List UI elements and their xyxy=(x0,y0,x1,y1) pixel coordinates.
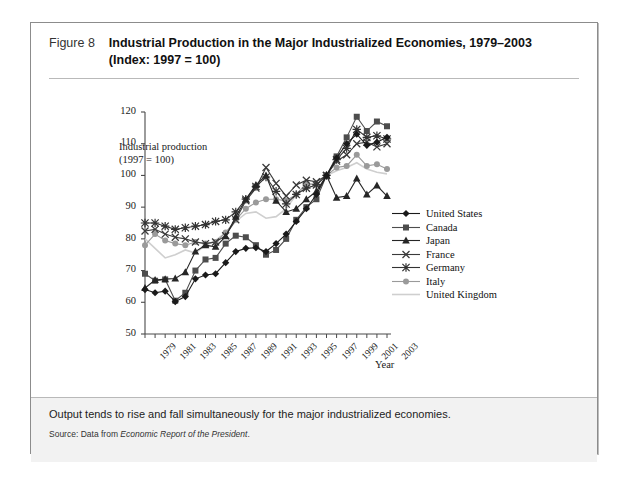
data-point-square xyxy=(243,234,249,240)
chart-legend: United StatesCanadaJapanFranceGermanyIta… xyxy=(391,207,497,302)
data-point-circle xyxy=(384,166,390,172)
data-point-star xyxy=(161,222,169,230)
data-point-star xyxy=(282,200,290,208)
data-point-square xyxy=(273,247,279,253)
legend-item-italy: Italy xyxy=(391,274,497,288)
data-point-star xyxy=(151,219,159,227)
data-point-star xyxy=(292,190,300,198)
legend-item-united-kingdom: United Kingdom xyxy=(391,288,497,302)
data-point-circle xyxy=(344,163,350,169)
legend-label: United Kingdom xyxy=(426,289,497,300)
data-point-star xyxy=(171,225,179,233)
data-point-diamond xyxy=(402,210,409,217)
data-point-square xyxy=(354,114,360,120)
data-point-square xyxy=(364,128,370,134)
data-point-circle xyxy=(243,205,249,211)
legend-item-france: France xyxy=(391,247,497,261)
legend-label: United States xyxy=(426,208,482,219)
data-point-square xyxy=(203,256,209,262)
legend-item-japan: Japan xyxy=(391,234,497,248)
data-point-star xyxy=(402,263,410,271)
data-point-diamond xyxy=(151,289,158,296)
data-point-triangle xyxy=(182,268,190,275)
legend-marker-icon xyxy=(391,288,421,301)
series-line-canada xyxy=(145,117,387,301)
data-point-square xyxy=(403,224,409,230)
legend-label: Japan xyxy=(426,235,450,246)
data-point-cross xyxy=(162,230,169,237)
data-point-cross xyxy=(273,180,280,187)
legend-marker-icon xyxy=(391,275,421,288)
legend-label: France xyxy=(426,249,455,260)
data-point-square xyxy=(344,134,350,140)
data-point-star xyxy=(221,215,229,223)
source-suffix: . xyxy=(247,429,249,439)
series-line-japan xyxy=(145,175,387,288)
data-point-star xyxy=(201,220,209,228)
data-point-diamond xyxy=(202,271,209,278)
data-point-circle xyxy=(403,278,409,284)
data-point-square xyxy=(384,123,390,129)
data-point-circle xyxy=(364,163,370,169)
legend-marker-icon xyxy=(391,221,421,234)
data-point-square xyxy=(213,255,219,261)
data-point-circle xyxy=(142,242,148,248)
data-point-star xyxy=(141,219,149,227)
legend-marker-icon xyxy=(391,248,421,261)
data-point-triangle xyxy=(373,181,381,188)
data-point-circle xyxy=(253,199,259,205)
data-point-square xyxy=(374,118,380,124)
data-point-cross xyxy=(293,181,300,188)
data-point-triangle xyxy=(171,274,179,281)
legend-item-canada: Canada xyxy=(391,220,497,234)
figure-header: Figure 8 Industrial Production in the Ma… xyxy=(31,23,597,69)
data-point-star xyxy=(191,222,199,230)
legend-label: Canada xyxy=(426,222,458,233)
data-point-diamond xyxy=(242,245,249,252)
data-point-square xyxy=(142,270,148,276)
data-point-star xyxy=(181,223,189,231)
figure-footer: Output tends to rise and fall simultaneo… xyxy=(31,398,597,462)
data-point-star xyxy=(363,133,371,141)
data-point-circle xyxy=(172,240,178,246)
data-point-square xyxy=(192,267,198,273)
legend-marker-icon xyxy=(391,207,421,220)
data-point-diamond xyxy=(383,134,390,141)
figure-title-line1: Industrial Production in the Major Indus… xyxy=(109,35,532,52)
data-point-triangle xyxy=(353,174,361,181)
data-point-cross xyxy=(263,164,270,171)
data-point-diamond xyxy=(141,286,148,293)
figure-card: Figure 8 Industrial Production in the Ma… xyxy=(30,22,598,454)
data-point-square xyxy=(233,232,239,238)
figure-title-line2: (Index: 1997 = 100) xyxy=(109,52,532,69)
data-point-square xyxy=(223,240,229,246)
data-point-circle xyxy=(334,164,340,170)
figure-note: Output tends to rise and fall simultaneo… xyxy=(49,407,579,422)
legend-label: Germany xyxy=(426,262,465,273)
legend-marker-icon xyxy=(391,234,421,247)
legend-label: Italy xyxy=(426,276,445,287)
data-point-circle xyxy=(354,152,360,158)
figure-label: Figure 8 xyxy=(49,35,95,50)
data-point-circle xyxy=(162,237,168,243)
data-point-circle xyxy=(182,242,188,248)
data-point-star xyxy=(211,217,219,225)
data-point-triangle xyxy=(303,195,311,202)
source-title: Economic Report of the President xyxy=(120,429,247,439)
chart-canvas xyxy=(31,79,599,397)
legend-marker-icon xyxy=(391,261,421,274)
figure-title: Industrial Production in the Major Indus… xyxy=(109,35,532,69)
data-point-triangle xyxy=(343,192,351,199)
chart-plot-area: Industrial production (1997 = 100) Year … xyxy=(31,79,599,397)
source-prefix: Source: Data from xyxy=(49,429,120,439)
data-point-star xyxy=(302,184,310,192)
legend-item-united-states: United States xyxy=(391,207,497,221)
data-point-circle xyxy=(263,196,269,202)
data-point-circle xyxy=(374,161,380,167)
figure-source: Source: Data from Economic Report of the… xyxy=(49,429,579,439)
legend-item-germany: Germany xyxy=(391,261,497,275)
